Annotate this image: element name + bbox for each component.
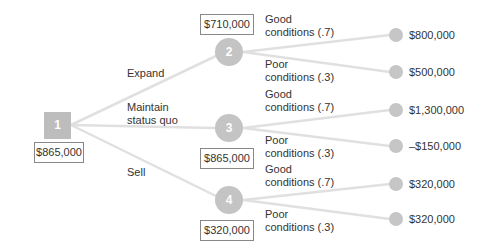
- outcome-label-2-poor: Poor conditions (.3): [265, 58, 334, 84]
- node-number: 1: [54, 118, 61, 132]
- outcome-label-3-poor: Poor conditions (.3): [265, 134, 334, 160]
- terminal-dot: [389, 65, 403, 79]
- outcome-label-4-good: Good conditions (.7): [265, 163, 334, 189]
- branch-line-sell: [71, 125, 216, 196]
- chance-node-2: 2: [215, 38, 243, 66]
- payoff-3-poor: –$150,000: [409, 140, 461, 153]
- branch-label-maintain: Maintain status quo: [127, 101, 178, 127]
- terminal-dot: [389, 139, 403, 153]
- outcome-label-2-good: Good conditions (.7): [265, 13, 334, 39]
- chance-node-3: 3: [215, 114, 243, 142]
- payoff-3-good: $1,300,000: [409, 104, 464, 117]
- terminal-dot: [389, 177, 403, 191]
- terminal-dot: [389, 28, 403, 42]
- decision-node-value: $865,000: [34, 142, 84, 163]
- chance-node-4-value: $320,000: [200, 220, 254, 241]
- decision-node-1: 1: [44, 112, 71, 139]
- payoff-4-poor: $320,000: [409, 213, 455, 226]
- terminal-dot: [389, 212, 403, 226]
- payoff-2-good: $800,000: [409, 29, 455, 42]
- payoff-4-good: $320,000: [409, 178, 455, 191]
- chance-node-3-value: $865,000: [200, 148, 254, 169]
- branch-label-expand: Expand: [127, 67, 164, 80]
- terminal-dot: [389, 103, 403, 117]
- branch-label-sell: Sell: [127, 166, 145, 179]
- outcome-label-4-poor: Poor conditions (.3): [265, 208, 334, 234]
- payoff-2-poor: $500,000: [409, 66, 455, 79]
- chance-node-4: 4: [215, 186, 243, 214]
- outcome-label-3-good: Good conditions (.7): [265, 88, 334, 114]
- chance-node-2-value: $710,000: [200, 14, 254, 35]
